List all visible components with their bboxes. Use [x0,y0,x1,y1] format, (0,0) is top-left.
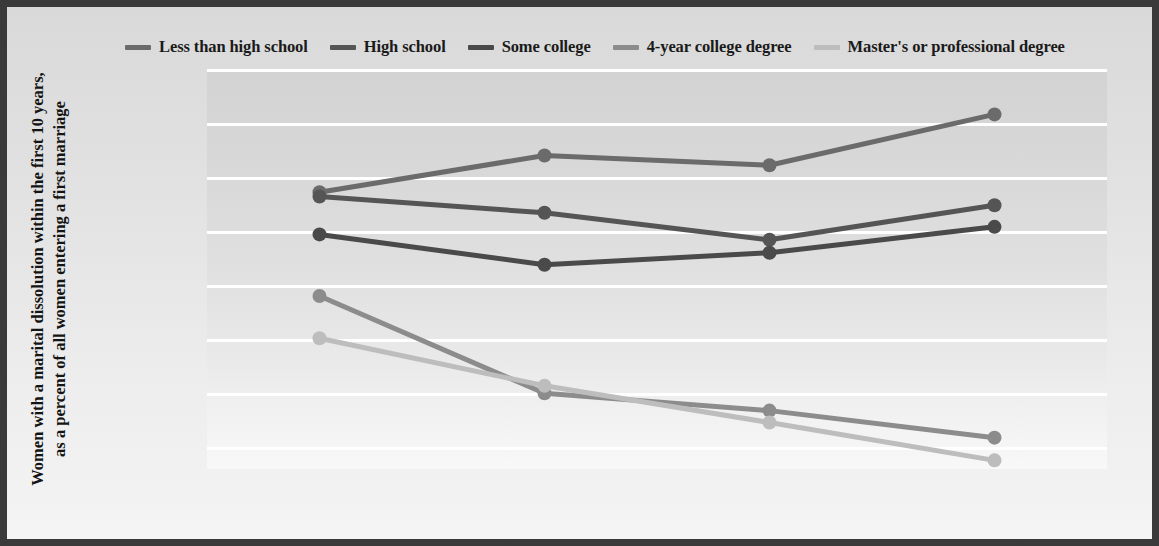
data-point-marker[interactable] [538,148,552,162]
data-point-marker[interactable] [763,233,777,247]
legend-swatch-icon [125,45,151,50]
series-line-1 [320,197,995,240]
legend-item-2[interactable]: Some college [468,37,591,57]
chart-series-layer [207,69,1107,469]
series-line-4 [320,338,995,460]
data-point-marker[interactable] [313,190,327,204]
y-axis-title: Women with a marital dissolution within … [27,69,71,489]
legend-swatch-icon [613,45,639,50]
data-point-marker[interactable] [988,198,1002,212]
data-point-marker[interactable] [538,258,552,272]
data-point-marker[interactable] [313,289,327,303]
data-point-marker[interactable] [538,379,552,393]
data-point-marker[interactable] [988,220,1002,234]
legend-swatch-icon [814,45,840,50]
legend-swatch-icon [330,45,356,50]
plot-area: 50%45%40%35%30%25%20%15% 1975–19791980–1… [207,69,1107,469]
legend-label: Master's or professional degree [848,37,1065,57]
legend-item-1[interactable]: High school [330,37,446,57]
series-line-0 [320,114,995,192]
legend-item-4[interactable]: Master's or professional degree [814,37,1065,57]
data-point-marker[interactable] [763,246,777,260]
data-point-marker[interactable] [763,416,777,430]
data-point-marker[interactable] [988,453,1002,467]
legend-label: 4-year college degree [647,37,792,57]
data-point-marker[interactable] [313,227,327,241]
legend-label: Less than high school [159,37,308,57]
chart-frame: Less than high schoolHigh schoolSome col… [0,0,1159,546]
legend-label: Some college [502,37,591,57]
data-point-marker[interactable] [763,158,777,172]
legend-item-3[interactable]: 4-year college degree [613,37,792,57]
legend-swatch-icon [468,45,494,50]
data-point-marker[interactable] [313,331,327,345]
legend-item-0[interactable]: Less than high school [125,37,308,57]
legend-label: High school [364,37,446,57]
data-point-marker[interactable] [988,107,1002,121]
series-line-3 [320,296,995,438]
data-point-marker[interactable] [538,206,552,220]
chart-legend: Less than high schoolHigh schoolSome col… [125,35,1135,59]
series-line-2 [320,227,995,265]
data-point-marker[interactable] [988,431,1002,445]
